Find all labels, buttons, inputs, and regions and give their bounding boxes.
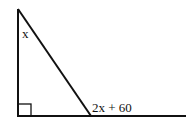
triangle-diagram: x 2x + 60: [0, 0, 190, 121]
hypotenuse: [18, 9, 91, 116]
angle-label-x: x: [22, 26, 29, 41]
exterior-angle-label: 2x + 60: [92, 100, 132, 115]
right-angle-marker: [18, 104, 31, 116]
